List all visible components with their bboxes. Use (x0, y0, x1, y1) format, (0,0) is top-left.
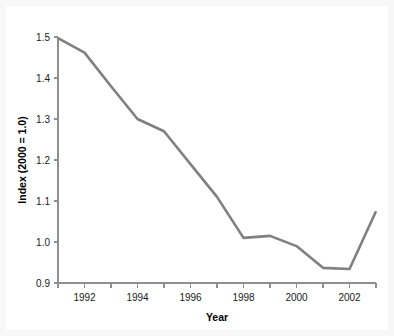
y-axis-title: Index (2000 = 1.0) (16, 116, 28, 203)
x-tick-label: 1996 (179, 292, 202, 303)
x-tick-label: 1994 (126, 292, 149, 303)
y-tick-label: 1.0 (36, 237, 50, 248)
y-axis-tick-marks (54, 37, 58, 283)
x-tick-label: 2002 (338, 292, 361, 303)
y-tick-label: 1.2 (36, 155, 50, 166)
chart-figure: 0.91.01.11.21.31.41.5 199219941996199820… (0, 0, 394, 336)
x-axis-title: Year (206, 311, 228, 323)
y-tick-label: 1.4 (36, 73, 50, 84)
data-series-line (58, 38, 376, 269)
y-axis-tick-labels: 0.91.01.11.21.31.41.5 (36, 32, 50, 289)
y-tick-label: 1.5 (36, 32, 50, 43)
x-axis-tick-labels: 199219941996199820002002 (73, 292, 361, 303)
line-chart: 0.91.01.11.21.31.41.5 199219941996199820… (6, 6, 394, 336)
y-tick-label: 1.1 (36, 196, 50, 207)
x-tick-label: 1992 (73, 292, 96, 303)
x-tick-label: 2000 (285, 292, 308, 303)
y-tick-label: 1.3 (36, 114, 50, 125)
x-tick-label: 1998 (232, 292, 255, 303)
y-tick-label: 0.9 (36, 278, 50, 289)
x-axis-tick-marks (58, 283, 376, 288)
